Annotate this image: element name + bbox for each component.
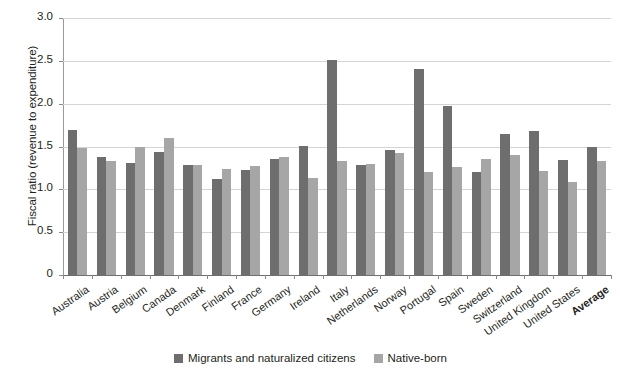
legend-item-native-born[interactable]: Native-born <box>374 352 447 364</box>
x-tick-mark <box>92 275 93 279</box>
bar-united-kingdom-migrants <box>529 131 539 275</box>
bar-switzerland-migrants <box>500 134 510 275</box>
x-tick-mark <box>496 275 497 279</box>
bar-spain-migrants <box>443 106 453 275</box>
bar-norway-native-born <box>395 153 405 275</box>
x-tick-mark <box>409 275 410 279</box>
bar-france-native-born <box>250 166 260 275</box>
x-tick-mark <box>553 275 554 279</box>
x-tick-mark <box>178 275 179 279</box>
y-tick-label: 2.0 <box>19 96 53 108</box>
x-tick-mark <box>63 275 64 279</box>
bars-layer <box>63 18 611 275</box>
x-tick-mark <box>236 275 237 279</box>
y-tick-label: 3.0 <box>19 10 53 22</box>
fiscal-ratio-bar-chart: Fiscal ratio (revenue to expenditure) 00… <box>0 0 621 375</box>
bar-austria-native-born <box>106 161 116 275</box>
legend-label: Native-born <box>388 352 447 364</box>
bar-spain-native-born <box>452 167 462 275</box>
legend-swatch-icon <box>374 354 383 363</box>
legend-label: Migrants and naturalized citizens <box>188 352 355 364</box>
x-tick-mark <box>611 275 612 279</box>
bar-united-kingdom-native-born <box>539 171 549 276</box>
x-tick-mark <box>150 275 151 279</box>
bar-belgium-native-born <box>135 147 145 275</box>
bar-netherlands-migrants <box>356 165 366 276</box>
y-tick-label: 1.0 <box>19 181 53 193</box>
x-tick-mark <box>121 275 122 279</box>
bar-united-states-native-born <box>568 182 578 275</box>
bar-portugal-migrants <box>414 69 424 275</box>
x-tick-mark <box>265 275 266 279</box>
bar-denmark-native-born <box>193 165 203 275</box>
bar-australia-native-born <box>77 148 87 275</box>
bar-switzerland-native-born <box>510 155 520 275</box>
bar-sweden-native-born <box>481 159 491 275</box>
x-tick-mark <box>380 275 381 279</box>
bar-norway-migrants <box>385 150 395 275</box>
x-tick-mark <box>323 275 324 279</box>
x-tick-mark <box>524 275 525 279</box>
y-tick-label: 0.5 <box>19 224 53 236</box>
x-tick-mark <box>207 275 208 279</box>
chart-legend: Migrants and naturalized citizensNative-… <box>0 352 621 364</box>
bar-germany-native-born <box>279 157 289 275</box>
x-tick-mark <box>467 275 468 279</box>
bar-sweden-migrants <box>472 172 482 275</box>
x-tick-mark <box>351 275 352 279</box>
bar-germany-migrants <box>270 159 280 276</box>
bar-ireland-native-born <box>308 178 318 275</box>
bar-australia-migrants <box>68 130 78 275</box>
bar-france-migrants <box>241 170 251 275</box>
y-tick-label: 2.5 <box>19 53 53 65</box>
bar-finland-migrants <box>212 179 222 275</box>
bar-average-migrants <box>587 147 597 276</box>
bar-portugal-native-born <box>424 172 434 275</box>
bar-netherlands-native-born <box>366 164 376 275</box>
x-tick-mark <box>294 275 295 279</box>
x-tick-mark <box>582 275 583 279</box>
x-axis-line <box>63 275 611 276</box>
bar-canada-migrants <box>154 152 164 275</box>
bar-italy-migrants <box>327 60 337 275</box>
bar-united-states-migrants <box>558 160 568 275</box>
legend-swatch-icon <box>174 354 183 363</box>
y-tick-label: 1.5 <box>19 139 53 151</box>
bar-denmark-migrants <box>183 165 193 275</box>
bar-austria-migrants <box>97 157 107 275</box>
legend-item-migrants[interactable]: Migrants and naturalized citizens <box>174 352 355 364</box>
bar-belgium-migrants <box>126 163 136 275</box>
y-tick-label: 0 <box>19 267 53 279</box>
bar-ireland-migrants <box>299 146 309 275</box>
bar-canada-native-born <box>164 138 174 275</box>
bar-finland-native-born <box>222 169 232 275</box>
x-tick-mark <box>438 275 439 279</box>
bar-italy-native-born <box>337 161 347 275</box>
bar-average-native-born <box>597 161 607 275</box>
